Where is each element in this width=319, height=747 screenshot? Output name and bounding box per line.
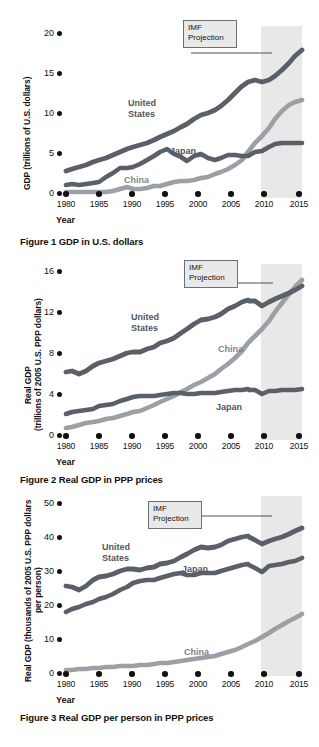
figure-3-ytick-40: 40 (28, 532, 54, 542)
figure-1-xdot-1995 (162, 191, 168, 197)
figure-2-xdot-1990 (129, 433, 135, 439)
figure-1-xtick-2005: 2005 (218, 199, 244, 209)
figure-2-imf-projection-annotation: IMF Projection (184, 260, 238, 288)
figure-2-imf-line2: Projection (189, 273, 225, 282)
figure-1-xdot-2000 (195, 191, 201, 197)
figure-2-xdot-1995 (162, 433, 168, 439)
figure-1-x-axis-title: Year (56, 215, 75, 225)
figure-3-ytick-50: 50 (28, 498, 54, 508)
figure-2-xdot-2000 (195, 433, 201, 439)
figure-1-xtick-1980: 1980 (53, 199, 79, 209)
figure-1-xdot-1985 (96, 191, 102, 197)
figure-2-xdot-1985 (96, 433, 102, 439)
figure-3-ytick-30: 30 (28, 566, 54, 576)
figure-2-xdot-2005 (228, 433, 234, 439)
figure-1-xtick-2000: 2000 (185, 199, 211, 209)
figure-3-xdot-2010 (261, 671, 267, 677)
figure-3-y-axis-label: Real GDP (thousands of 2005 U.S. PPP dol… (23, 498, 43, 683)
figure-1-xdot-1990 (129, 191, 135, 197)
figure-1-ytick-10: 10 (28, 108, 54, 118)
figure-2-xtick-1980: 1980 (53, 441, 79, 451)
figure-3-xdot-1980 (63, 671, 69, 677)
figure-2-label-china: China (218, 344, 243, 355)
figure-3-caption: Figure 3 Real GDP per person in PPP pric… (20, 712, 213, 723)
figure-3-xdot-2015 (296, 671, 302, 677)
figure-3-imf-projection-annotation: IMF Projection (148, 501, 202, 529)
figure-2-xdot-1980 (63, 433, 69, 439)
figure-1-xtick-2015: 2015 (286, 199, 312, 209)
figure-1-xdot-2015 (296, 191, 302, 197)
figure-3-label-united-states: United States (102, 542, 152, 563)
figure-1-xtick-2010: 2010 (251, 199, 277, 209)
figure-2-ytick-12: 12 (28, 307, 54, 317)
figure-3-xdot-2005 (228, 671, 234, 677)
figure-2-ytick-16: 16 (28, 266, 54, 276)
figure-1-xdot-1980 (63, 191, 69, 197)
figure-3-xtick-2010: 2010 (251, 679, 277, 689)
figure-2-xtick-1990: 1990 (119, 441, 145, 451)
figure-2-ytick-8: 8 (28, 348, 54, 358)
figure-3-xdot-1990 (129, 671, 135, 677)
figure-3-ytick-10: 10 (28, 634, 54, 644)
figure-2-xtick-2015: 2015 (286, 441, 312, 451)
figure-1-imf-line1: IMF (188, 23, 202, 32)
figure-1-label-china: China (124, 175, 149, 186)
figure-1-y-axis-label: GDP (trillions of U.S. dollars) (22, 58, 32, 208)
figure-3-imf-line2: Projection (153, 514, 189, 523)
figure-1-xdot-2005 (228, 191, 234, 197)
figure-3: Real GDP (thousands of 2005 U.S. PPP dol… (0, 490, 319, 747)
figure-3-xdot-1995 (162, 671, 168, 677)
figure-3-ytick-0: 0 (28, 668, 54, 678)
figure-2-xtick-2010: 2010 (251, 441, 277, 451)
figure-1-label-japan: Japan (170, 146, 196, 157)
figure-3-xtick-2015: 2015 (286, 679, 312, 689)
figure-1-xdot-2010 (261, 191, 267, 197)
figure-3-xtick-1995: 1995 (152, 679, 178, 689)
figure-1-ytick-20: 20 (28, 28, 54, 38)
figure-3-xtick-2000: 2000 (185, 679, 211, 689)
figure-1-caption: Figure 1 GDP in U.S. dollars (20, 236, 143, 247)
figure-2-label-united-states: United States (131, 312, 183, 333)
figure-3-projection-band (261, 496, 302, 676)
figure-1-ytick-0: 0 (28, 188, 54, 198)
figure-1-imf-line2: Projection (188, 33, 224, 42)
figure-2-ytick-0: 0 (28, 430, 54, 440)
figure-3-xdot-2000 (195, 671, 201, 677)
figure-1-xtick-1995: 1995 (152, 199, 178, 209)
figure-3-x-axis-title: Year (56, 695, 75, 705)
figure-2-xdot-2015 (296, 433, 302, 439)
figure-3-imf-line1: IMF (153, 504, 167, 513)
figures-page: GDP (trillions of U.S. dollars) 20 15 10… (0, 0, 319, 747)
figure-2-caption: Figure 2 Real GDP in PPP prices (20, 474, 163, 485)
figure-1-imf-projection-annotation: IMF Projection (183, 20, 237, 48)
figure-2-plot (62, 264, 307, 440)
figure-2-xdot-2010 (261, 433, 267, 439)
figure-3-label-china: China (184, 647, 209, 658)
figure-3-xtick-2005: 2005 (218, 679, 244, 689)
figure-1-plot (62, 26, 307, 198)
figure-3-xtick-1990: 1990 (119, 679, 145, 689)
figure-2-xtick-2000: 2000 (185, 441, 211, 451)
figure-1: GDP (trillions of U.S. dollars) 20 15 10… (0, 0, 319, 250)
figure-2-xtick-1985: 1985 (86, 441, 112, 451)
figure-2-ytick-4: 4 (28, 389, 54, 399)
figure-2: Real GDP (trillions of 2005 U.S. PPP dol… (0, 250, 319, 490)
figure-3-xtick-1985: 1985 (86, 679, 112, 689)
figure-2-x-axis-title: Year (56, 457, 75, 467)
figure-3-xdot-1985 (96, 671, 102, 677)
figure-2-xtick-1995: 1995 (152, 441, 178, 451)
figure-1-ytick-15: 15 (28, 68, 54, 78)
figure-2-label-japan: Japan (216, 402, 242, 413)
figure-1-label-united-states: United States (128, 98, 182, 119)
figure-1-xtick-1985: 1985 (86, 199, 112, 209)
figure-1-ytick-5: 5 (28, 148, 54, 158)
figure-1-xtick-1990: 1990 (119, 199, 145, 209)
figure-2-imf-line1: IMF (189, 263, 203, 272)
figure-2-xtick-2005: 2005 (218, 441, 244, 451)
figure-3-xtick-1980: 1980 (53, 679, 79, 689)
figure-3-label-japan: Japan (182, 564, 208, 575)
figure-3-ytick-20: 20 (28, 600, 54, 610)
